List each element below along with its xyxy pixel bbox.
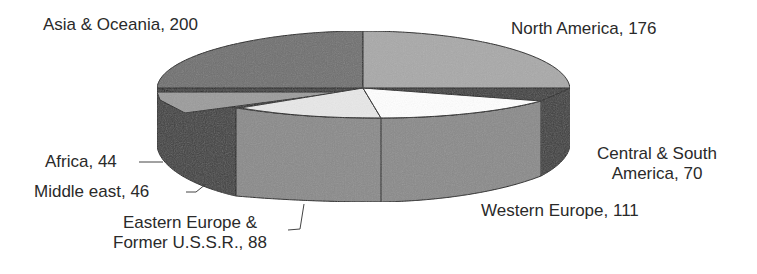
leader-line-eastern-europe [288, 204, 304, 230]
label-africa: Africa, 44 [45, 152, 117, 172]
label-eastern-europe: Eastern Europe & Former U.S.S.R., 88 [90, 213, 290, 253]
label-eastern-europe-line1: Eastern Europe & [90, 213, 290, 233]
label-eastern-europe-line2: Former U.S.S.R., 88 [90, 233, 290, 253]
label-central-south-america-line2: America, 70 [577, 164, 737, 184]
label-north-america: North America, 176 [511, 19, 657, 39]
label-central-south-america: Central & South America, 70 [577, 144, 737, 184]
label-central-south-america-line1: Central & South [577, 144, 737, 164]
slice-top-asia-oceania [157, 31, 363, 88]
label-asia-oceania: Asia & Oceania, 200 [43, 15, 198, 35]
slice-top-north-america [363, 31, 570, 88]
label-middle-east: Middle east, 46 [34, 182, 149, 202]
label-western-europe: Western Europe, 111 [481, 201, 639, 221]
